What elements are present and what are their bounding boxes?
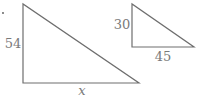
large-triangle-horizontal-leg-label: x — [78, 83, 86, 98]
small-triangle-vertical-leg-label: 30 — [114, 17, 131, 32]
small-triangle: 30 45 — [114, 4, 194, 64]
similar-triangles-diagram: 54 x 30 45 — [0, 0, 200, 99]
small-triangle-horizontal-leg-label: 45 — [155, 49, 172, 64]
large-triangle-vertical-leg-label: 54 — [5, 36, 22, 51]
large-triangle-outline — [23, 4, 139, 83]
bullet-dot — [2, 12, 4, 14]
small-triangle-outline — [132, 4, 194, 47]
